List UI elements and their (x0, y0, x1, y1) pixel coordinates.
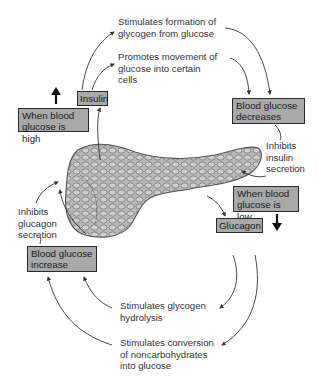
condition-low: When blood glucose is low (233, 186, 299, 212)
arrow-conversion-to-increase (48, 277, 112, 345)
down-arrow-icon (272, 214, 282, 231)
insulin-effect-glucose-movement: Promotes movement of glucose into certai… (118, 51, 217, 86)
glucagon-effect-hydrolysis: Stimulates glycogen hydrolysis (120, 300, 206, 323)
arrow-movement-to-decrease (230, 58, 249, 94)
glucagon-effect-conversion: Stimulates conversion of noncarbohydrate… (120, 337, 214, 372)
glucagon-label: Glucagon (216, 218, 263, 233)
insulin-effect-glycogen-formation: Stimulates formation of glycogen from gl… (118, 16, 216, 39)
arrow-insulin-to-glycogen (82, 32, 114, 90)
arrow-hydrolysis-to-increase (84, 277, 112, 308)
up-arrow-icon (51, 87, 61, 104)
feedback-inhibits-glucagon: Inhibits glucagon secretion (18, 206, 57, 241)
arrow-glucagon-to-hydrolysis (220, 255, 237, 308)
arrow-insulin-to-movement (92, 64, 114, 90)
arrow-pancreas-to-glucagon (207, 196, 225, 216)
insulin-label: Insulin (77, 91, 108, 106)
arrow-inhibit-glucagon (36, 182, 58, 203)
feedback-inhibits-insulin: Inhibits insulin secretion (266, 140, 305, 175)
outcome-decreases: Blood glucose decreases (232, 98, 305, 124)
outcome-increase: Blood glucose increase (27, 246, 97, 272)
line-decrease-to-inhibit (275, 125, 281, 140)
arrow-glucagon-to-conversion (222, 255, 257, 345)
condition-high: When blood glucose is high (18, 108, 89, 132)
